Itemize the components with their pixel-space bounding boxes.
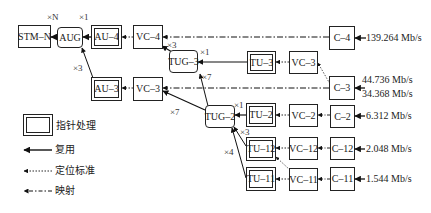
node-label: C–2 xyxy=(334,112,351,122)
node-c11: C–11 xyxy=(330,167,355,191)
node-label: STM–N xyxy=(18,32,51,42)
mult-tug3-tug2: ×7 xyxy=(202,73,212,82)
node-vc12: VC–12 xyxy=(289,137,318,160)
node-label: VC–2 xyxy=(292,111,316,121)
legend-mapping: 映射 xyxy=(55,186,75,196)
rate-c2: 6.312 Mb/s xyxy=(366,111,412,121)
rate-c12: 2.048 Mb/s xyxy=(366,144,412,154)
node-label: TU–3 xyxy=(250,58,273,68)
node-label: TUG–2 xyxy=(205,112,236,122)
mult-tug2-tu12: ×3 xyxy=(240,128,250,137)
rate-c3-a: 44.736 Mb/s xyxy=(362,75,413,85)
node-label: VC–11 xyxy=(289,175,318,185)
node-label: VC–3 xyxy=(292,58,316,68)
mult-aug-au4: ×1 xyxy=(79,13,89,22)
node-label: VC–12 xyxy=(289,144,318,154)
node-aug: AUG xyxy=(57,27,83,48)
node-vc11: VC–11 xyxy=(289,168,318,191)
node-vc3-right: VC–3 xyxy=(289,51,318,74)
mult-aug-au3: ×3 xyxy=(73,64,83,73)
legend-pointer-processing: 指针处理 xyxy=(56,121,96,131)
rate-c3-b: 34.368 Mb/s xyxy=(362,89,413,99)
node-label: TU–12 xyxy=(247,144,275,154)
node-label: AU–4 xyxy=(94,32,118,42)
node-label: TU–2 xyxy=(249,110,272,120)
align-vc11-to-tu12 xyxy=(276,157,290,170)
node-c4: C–4 xyxy=(329,26,355,50)
rate-c4: 139.264 Mb/s xyxy=(366,33,422,43)
node-tu11: TU–11 xyxy=(246,167,276,191)
node-label: AU–3 xyxy=(94,84,118,94)
node-au3: AU–3 xyxy=(91,77,122,101)
arrow-au3-to-aug xyxy=(82,48,93,78)
node-label: C–12 xyxy=(332,144,354,154)
legend-aligning: 定位标准 xyxy=(55,166,95,176)
node-au4: AU–4 xyxy=(91,25,122,49)
mult-tug3-tu3: ×1 xyxy=(200,48,210,57)
node-tu12: TU–12 xyxy=(246,137,276,161)
node-c2: C–2 xyxy=(330,105,355,128)
node-label: AUG xyxy=(59,33,81,43)
mult-tug2-tu2: ×1 xyxy=(234,101,244,110)
node-label: C–3 xyxy=(334,83,351,93)
node-vc2: VC–2 xyxy=(289,104,318,127)
legend-multiplexing: 复用 xyxy=(55,145,75,155)
mult-vc4-tug3: ×3 xyxy=(167,41,177,50)
rate-c11: 1.544 Mb/s xyxy=(366,174,412,184)
mult-stm-aug: ×N xyxy=(47,13,59,22)
node-vc3-left: VC–3 xyxy=(133,77,163,101)
node-stm-n: STM–N xyxy=(18,25,51,48)
node-label: TUG–3 xyxy=(168,57,199,67)
node-c3: C–3 xyxy=(329,76,355,100)
node-tu2: TU–2 xyxy=(246,103,276,127)
node-tu3: TU–3 xyxy=(247,51,276,74)
mult-tug2-tu11: ×4 xyxy=(224,148,234,157)
node-c12: C–12 xyxy=(330,137,355,160)
node-label: VC–3 xyxy=(136,84,160,94)
node-label: C–4 xyxy=(334,33,351,43)
node-tug3: TUG–3 xyxy=(169,50,198,73)
node-label: C–11 xyxy=(332,174,353,184)
mult-vc3-tug2: ×7 xyxy=(170,108,180,117)
node-label: VC–4 xyxy=(136,32,160,42)
node-tug2: TUG–2 xyxy=(205,105,235,128)
node-label: TU–11 xyxy=(247,174,275,184)
node-vc4: VC–4 xyxy=(133,25,163,49)
legend-double-box-icon xyxy=(23,114,53,136)
